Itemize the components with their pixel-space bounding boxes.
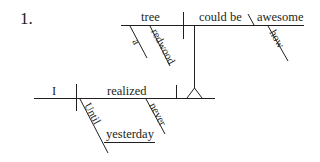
- problem-number: 1.: [20, 10, 33, 27]
- word-realized: realized: [107, 85, 147, 98]
- word-tree: tree: [141, 11, 160, 24]
- word-awesome: awesome: [257, 11, 304, 24]
- word-yesterday: yesterday: [106, 128, 154, 141]
- diagram-lines: [0, 0, 320, 162]
- pedestal-triangle: [187, 88, 202, 98]
- word-I: I: [52, 85, 56, 98]
- noun-clause-complement-slash: [248, 14, 254, 25]
- word-could-be: could be: [199, 11, 242, 24]
- sentence-diagram-canvas: 1. tree could be awesome a redwood how I…: [0, 0, 320, 162]
